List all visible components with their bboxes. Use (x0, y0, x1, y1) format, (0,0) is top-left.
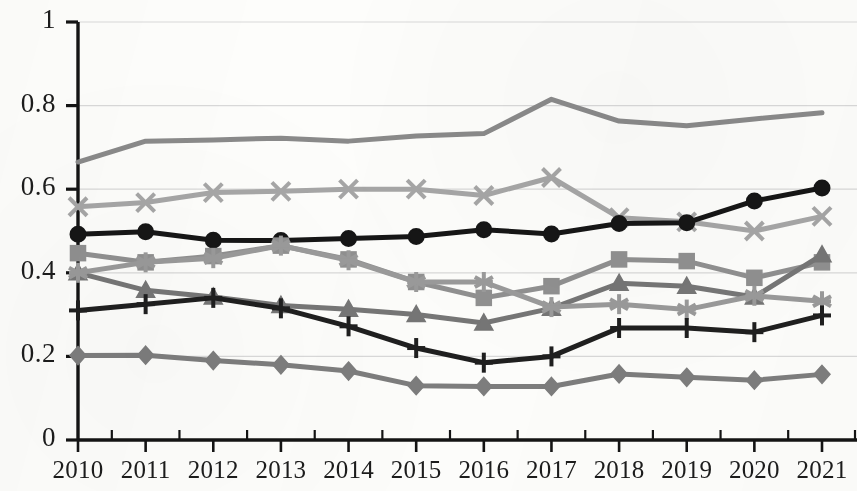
x-axis-label-2011: 2011 (107, 456, 185, 484)
data-point-diamond (746, 371, 762, 389)
x-axis-label-2010: 2010 (39, 456, 117, 484)
x-axis-label-2017: 2017 (512, 456, 590, 484)
data-point-circle (206, 233, 221, 248)
data-point-diamond (611, 365, 627, 383)
series-line (78, 355, 822, 386)
data-point-circle (612, 216, 627, 231)
data-point-circle (341, 231, 356, 246)
y-axis-label-0: 0 (0, 422, 56, 453)
data-point-diamond (408, 377, 424, 395)
data-point-diamond (70, 347, 86, 365)
series-series-2-x (69, 168, 831, 240)
y-axis-label-0.4: 0.4 (0, 255, 56, 286)
data-point-diamond (273, 356, 289, 374)
data-point-circle (71, 227, 86, 242)
x-axis-label-2015: 2015 (377, 456, 455, 484)
series-line (78, 177, 822, 231)
plot-area (0, 0, 857, 491)
x-axis-label-2018: 2018 (580, 456, 658, 484)
data-point-diamond (476, 377, 492, 395)
data-point-diamond (679, 368, 695, 386)
data-point-triangle (813, 246, 831, 262)
x-axis-label-2019: 2019 (648, 456, 726, 484)
data-point-square (544, 279, 559, 294)
data-point-circle (138, 224, 153, 239)
line-chart: 10.80.60.40.20 2010201120122013201420152… (0, 0, 857, 491)
data-point-diamond (205, 352, 221, 370)
data-point-diamond (814, 365, 830, 383)
x-axis-label-2020: 2020 (715, 456, 793, 484)
series-line (78, 99, 822, 162)
data-point-square (476, 290, 491, 305)
data-point-diamond (341, 362, 357, 380)
data-point-diamond (138, 346, 154, 364)
y-axis-label-1: 1 (0, 4, 56, 35)
series-series-6-asterisk (69, 236, 831, 320)
data-point-circle (747, 193, 762, 208)
x-axis-label-2014: 2014 (310, 456, 388, 484)
data-point-circle (679, 215, 694, 230)
data-point-square (612, 252, 627, 267)
data-point-square (747, 270, 762, 285)
series-line (78, 298, 822, 363)
data-point-circle (544, 226, 559, 241)
series-series-1-plain-line (78, 99, 822, 162)
x-axis-label-2012: 2012 (174, 456, 252, 484)
data-point-circle (476, 222, 491, 237)
data-point-square (679, 254, 694, 269)
x-axis-label-2013: 2013 (242, 456, 320, 484)
y-axis-label-0.8: 0.8 (0, 88, 56, 119)
x-axis-label-2021: 2021 (783, 456, 857, 484)
data-point-circle (409, 229, 424, 244)
data-point-square (71, 246, 86, 261)
y-axis-label-0.6: 0.6 (0, 171, 56, 202)
x-axis-label-2016: 2016 (445, 456, 523, 484)
data-point-diamond (543, 377, 559, 395)
data-point-circle (815, 180, 830, 195)
y-axis-label-0.2: 0.2 (0, 338, 56, 369)
